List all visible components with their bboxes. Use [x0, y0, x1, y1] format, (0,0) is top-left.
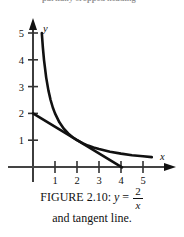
caption-equals-sign: =	[119, 190, 132, 204]
y-tick-label-5: 5	[19, 28, 24, 39]
figure-container: partially cropped heading	[0, 0, 184, 237]
x-axis-arrowhead	[164, 163, 176, 171]
y-tick-label-1: 1	[19, 135, 24, 146]
caption-figure-number: FIGURE 2.10:	[40, 190, 114, 204]
y-axis-arrowhead	[29, 18, 37, 30]
y-tick-label-4: 4	[19, 55, 25, 66]
caption-line-2: and tangent line.	[0, 211, 184, 226]
cropped-header-text: partially cropped heading	[42, 0, 136, 3]
fraction-numerator: 2	[133, 186, 143, 197]
fraction-denominator: x	[133, 200, 143, 211]
x-axis-tick-labels: 1 2 3 4 5	[52, 175, 145, 186]
figure-caption: FIGURE 2.10: y = 2x and tangent line.	[0, 186, 184, 226]
caption-line-1: FIGURE 2.10: y = 2x	[0, 186, 184, 211]
y-tick-label-3: 3	[19, 82, 24, 93]
hyperbola-curve	[42, 33, 152, 157]
y-tick-label-2: 2	[19, 108, 24, 119]
x-tick-label-4: 4	[118, 175, 124, 186]
y-axis	[29, 18, 37, 182]
x-tick-label-1: 1	[52, 175, 57, 186]
y-axis-tick-labels: 1 2 3 4 5	[19, 28, 25, 146]
x-axis-label: x	[159, 151, 165, 162]
coordinate-plot-svg: 1 2 3 4 5 1 2 3 4 5	[0, 6, 184, 186]
tangent-line	[33, 113, 122, 167]
x-tick-label-2: 2	[74, 175, 79, 186]
caption-fraction: 2x	[133, 186, 143, 211]
plot-area: 1 2 3 4 5 1 2 3 4 5	[0, 6, 184, 186]
x-tick-label-5: 5	[140, 175, 145, 186]
x-tick-label-3: 3	[96, 175, 101, 186]
